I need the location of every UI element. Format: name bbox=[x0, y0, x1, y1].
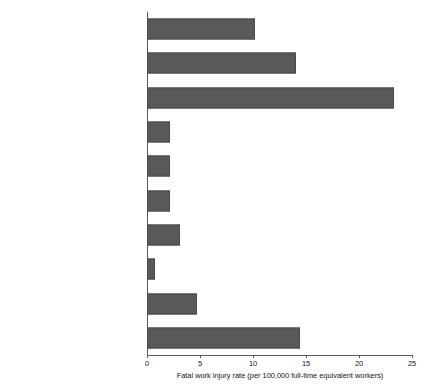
bar-chart-figure: ConstructionTransportation and warehousi… bbox=[0, 0, 435, 391]
x-tick-label: 0 bbox=[145, 359, 149, 368]
bar bbox=[147, 327, 300, 348]
bar-row: Retail trade bbox=[147, 149, 412, 183]
plot-area: ConstructionTransportation and warehousi… bbox=[147, 12, 412, 355]
x-axis-title: Fatal work injury rate (per 100,000 full… bbox=[147, 371, 413, 380]
x-axis-line bbox=[147, 355, 413, 356]
x-tick-mark bbox=[147, 355, 148, 358]
bar bbox=[147, 190, 170, 211]
bar-row: Other services (exc. Public admin.) bbox=[147, 218, 412, 252]
bar bbox=[147, 224, 180, 245]
bar bbox=[147, 293, 197, 314]
x-tick-mark bbox=[359, 355, 360, 358]
bar-row: Government bbox=[147, 115, 412, 149]
bar bbox=[147, 87, 394, 108]
x-tick-label: 5 bbox=[198, 359, 202, 368]
x-tick-label: 15 bbox=[302, 359, 310, 368]
bar-row: Agriculture, forestry, fishing, and hunt… bbox=[147, 81, 412, 115]
x-tick-label: 10 bbox=[249, 359, 257, 368]
x-tick-label: 25 bbox=[408, 359, 416, 368]
bar-row: Transportation and warehousing bbox=[147, 46, 412, 80]
bar-row: Leisure and hospitality bbox=[147, 184, 412, 218]
bar-row: Mining, quarrying, and oil and gas extra… bbox=[147, 321, 412, 355]
x-tick-label: 20 bbox=[355, 359, 363, 368]
bar bbox=[147, 259, 155, 280]
bar-row: Educational and health services bbox=[147, 252, 412, 286]
x-tick-mark bbox=[412, 355, 413, 358]
x-tick-mark bbox=[200, 355, 201, 358]
bar bbox=[147, 122, 170, 143]
bar-row: Construction bbox=[147, 12, 412, 46]
x-tick-mark bbox=[253, 355, 254, 358]
bar-row: Wholesale trade bbox=[147, 286, 412, 320]
bar bbox=[147, 53, 296, 74]
bar bbox=[147, 156, 170, 177]
x-tick-mark bbox=[306, 355, 307, 358]
bar bbox=[147, 19, 255, 40]
